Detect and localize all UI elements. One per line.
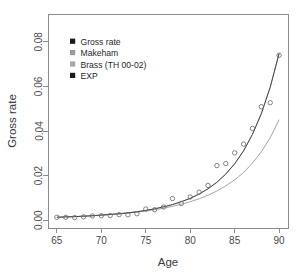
gross-rate-scatter-plot: 657075808590 0.000.020.040.060.08 Gross … [0,0,306,274]
legend-marker-brass-th-00-02 [70,61,75,66]
legend-label-exp: EXP [81,71,98,81]
x-tick-label-65: 65 [51,235,63,246]
x-tick-label-70: 70 [96,235,108,246]
y-tick-label-0.04: 0.04 [34,121,45,141]
y-tick-label-0.02: 0.02 [34,165,45,185]
y-tick-label-0.06: 0.06 [34,76,45,96]
legend-label-brass-th-00-02: Brass (TH 00-02) [81,60,147,70]
legend-marker-makeham [70,50,75,55]
x-tick-label-80: 80 [185,235,197,246]
x-axis-title: Age [158,256,178,268]
x-tick-label-85: 85 [229,235,241,246]
y-tick-label-0.00: 0.00 [34,210,45,230]
legend-marker-exp [70,73,75,78]
legend-label-makeham: Makeham [81,48,119,58]
y-tick-label-0.08: 0.08 [34,32,45,52]
x-tick-label-90: 90 [274,235,286,246]
chart-figure: 657075808590 0.000.020.040.060.08 Gross … [0,0,306,274]
legend-marker-gross-rate [70,39,75,44]
figure-background [0,0,306,274]
legend-label-gross-rate: Gross rate [81,37,121,47]
x-tick-label-75: 75 [140,235,152,246]
y-axis-title: Gross rate [6,94,18,148]
